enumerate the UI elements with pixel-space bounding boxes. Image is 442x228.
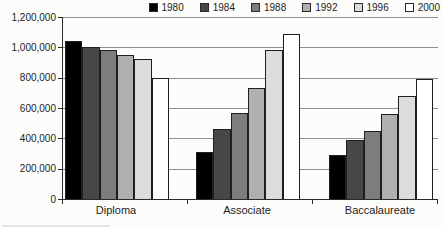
- bar-baccalaureate-1980: [329, 155, 346, 199]
- legend-item-1984: 1984: [200, 2, 235, 13]
- legend-label: 1980: [162, 2, 184, 13]
- legend-swatch-icon: [405, 3, 414, 12]
- bar-baccalaureate-1988: [364, 131, 381, 199]
- x-axis-category-label: Associate: [195, 204, 299, 216]
- cropped-caption-fragment: [2, 225, 110, 227]
- y-axis-tick-label: 1,000,000: [2, 42, 56, 53]
- bar-group-associate: [196, 17, 300, 199]
- bar-baccalaureate-2000: [416, 79, 433, 199]
- x-axis-category-label: Diploma: [64, 204, 168, 216]
- bar-diploma-1996: [134, 59, 151, 199]
- legend-swatch-icon: [251, 3, 260, 12]
- bar-group-baccalaureate: [329, 17, 433, 199]
- y-axis-tick-label: 200,000: [2, 163, 56, 174]
- legend-swatch-icon: [149, 3, 158, 12]
- legend-label: 2000: [418, 2, 440, 13]
- y-axis-tick-label: 0: [2, 194, 56, 205]
- x-axis-tick-mark: [312, 200, 313, 204]
- bar-diploma-1984: [82, 47, 99, 199]
- legend-item-1996: 1996: [354, 2, 389, 13]
- legend-item-1980: 1980: [149, 2, 184, 13]
- legend-swatch-icon: [354, 3, 363, 12]
- bar-group-diploma: [65, 17, 169, 199]
- x-axis-tick-mark: [62, 200, 63, 204]
- bar-baccalaureate-1992: [381, 114, 398, 199]
- y-axis-tick-label: 600,000: [2, 103, 56, 114]
- chart-legend: 198019841988199219962000: [149, 2, 441, 13]
- legend-label: 1992: [315, 2, 337, 13]
- bar-associate-1980: [196, 152, 213, 199]
- bar-associate-1996: [265, 50, 282, 199]
- legend-swatch-icon: [302, 3, 311, 12]
- legend-item-1992: 1992: [302, 2, 337, 13]
- bar-associate-1992: [248, 88, 265, 199]
- legend-label: 1984: [213, 2, 235, 13]
- y-axis-tick-label: 1,200,000: [2, 12, 56, 23]
- y-axis-tick-label: 800,000: [2, 72, 56, 83]
- legend-item-1988: 1988: [251, 2, 286, 13]
- legend-swatch-icon: [200, 3, 209, 12]
- x-axis-category-label: Baccalaureate: [328, 204, 432, 216]
- bar-baccalaureate-1996: [398, 96, 415, 199]
- bar-diploma-1988: [100, 50, 117, 199]
- bar-baccalaureate-1984: [346, 140, 363, 199]
- legend-label: 1988: [264, 2, 286, 13]
- bar-diploma-2000: [152, 78, 169, 199]
- plot-area: [62, 17, 438, 200]
- y-axis-tick-label: 400,000: [2, 133, 56, 144]
- bar-associate-1984: [213, 129, 230, 199]
- bar-diploma-1992: [117, 55, 134, 199]
- x-axis-tick-mark: [437, 200, 438, 204]
- bar-diploma-1980: [65, 41, 82, 199]
- legend-label: 1996: [367, 2, 389, 13]
- bar-chart-figure: 198019841988199219962000 0200,000400,000…: [0, 0, 442, 228]
- bar-associate-1988: [231, 113, 248, 199]
- legend-item-2000: 2000: [405, 2, 440, 13]
- x-axis-tick-mark: [187, 200, 188, 204]
- bar-associate-2000: [283, 34, 300, 199]
